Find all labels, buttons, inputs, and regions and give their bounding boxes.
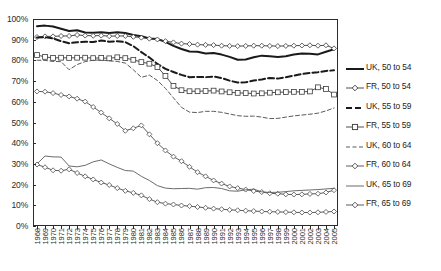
y-tick-mark <box>33 19 36 20</box>
series-marker <box>131 57 136 62</box>
series-marker <box>315 191 320 196</box>
x-tick-mark <box>310 226 311 229</box>
series-marker <box>235 44 240 49</box>
legend-item-label: FR, 50 to 54 <box>366 81 411 91</box>
series-marker <box>299 43 304 48</box>
y-tick-label: 60% <box>12 97 28 107</box>
series-marker <box>315 43 320 48</box>
series-marker <box>211 88 216 93</box>
x-tick-mark <box>222 226 223 229</box>
series-marker <box>299 192 304 197</box>
series-marker <box>211 206 216 211</box>
legend-key-icon <box>345 178 365 190</box>
series-marker <box>219 89 224 94</box>
legend-item-uk-65-to-69[interactable]: UK, 65 to 69 <box>345 174 441 194</box>
series-marker <box>83 174 88 179</box>
series-marker <box>75 32 80 37</box>
series-marker <box>267 191 272 196</box>
legend-item-uk-55-to-59[interactable]: UK, 55 to 59 <box>345 96 441 116</box>
series-marker <box>75 55 80 60</box>
y-tick-label: 80% <box>12 55 28 65</box>
legend-key-icon <box>345 100 365 112</box>
series-marker <box>219 43 224 48</box>
legend-item-label: UK, 55 to 59 <box>366 101 411 111</box>
series-marker <box>187 204 192 209</box>
series-marker <box>267 209 272 214</box>
series-line <box>37 60 334 119</box>
y-tick-mark <box>33 164 36 165</box>
series-marker <box>267 90 272 95</box>
x-tick-mark <box>93 226 94 229</box>
series-marker <box>307 43 312 48</box>
series-marker <box>203 174 208 179</box>
series-marker <box>147 61 152 66</box>
x-tick-mark <box>190 226 191 229</box>
series-marker <box>307 191 312 196</box>
series-marker <box>91 33 96 38</box>
legend-item-label: FR, 55 to 59 <box>366 120 411 130</box>
series-marker <box>115 33 120 38</box>
legend-key-icon <box>345 158 365 170</box>
y-tick-label: 30% <box>12 159 28 169</box>
y-tick-mark <box>33 185 36 186</box>
legend-item-fr-50-to-54[interactable]: FR, 50 to 54 <box>345 77 441 97</box>
x-axis: 1968196919701971197219731974197519761977… <box>33 228 338 271</box>
x-tick-mark <box>181 226 182 229</box>
x-tick-mark <box>77 226 78 229</box>
y-tick-label: 10% <box>12 200 28 210</box>
x-tick-mark <box>133 226 134 229</box>
x-tick-mark <box>69 226 70 229</box>
legend-item-fr-60-to-64[interactable]: FR, 60 to 64 <box>345 155 441 175</box>
y-tick-label: 0% <box>16 221 28 231</box>
x-tick-mark <box>141 226 142 229</box>
x-tick-label: 2005 <box>330 228 339 245</box>
series-marker <box>195 204 200 209</box>
series-marker <box>179 203 184 208</box>
x-tick-mark <box>45 226 46 229</box>
x-tick-mark <box>53 226 54 229</box>
x-tick-mark <box>125 226 126 229</box>
series-marker <box>332 92 337 97</box>
series-marker <box>59 33 64 38</box>
x-tick-mark <box>278 226 279 229</box>
series-marker <box>332 209 337 214</box>
series-line <box>37 156 334 192</box>
legend-item-fr-55-to-59[interactable]: FR, 55 to 59 <box>345 116 441 136</box>
legend-item-uk-60-to-64[interactable]: UK, 60 to 64 <box>345 135 441 155</box>
x-tick-mark <box>302 226 303 229</box>
series-marker <box>107 56 112 61</box>
series-marker <box>99 33 104 38</box>
legend-item-fr-65-to-69[interactable]: FR, 65 to 69 <box>345 194 441 214</box>
series-marker <box>259 91 264 96</box>
x-tick-mark <box>157 226 158 229</box>
series-marker <box>147 197 152 202</box>
series-uk-60-to-64 <box>37 60 334 119</box>
series-marker <box>59 55 64 60</box>
legend-key-icon <box>345 80 365 92</box>
series-marker <box>115 55 120 60</box>
series-marker <box>203 205 208 210</box>
series-marker <box>195 170 200 175</box>
series-marker <box>219 181 224 186</box>
series-marker <box>275 44 280 49</box>
y-tick-label: 40% <box>12 138 28 148</box>
series-marker <box>227 207 232 212</box>
y-tick-mark <box>33 40 36 41</box>
x-tick-mark <box>173 226 174 229</box>
x-tick-mark <box>117 226 118 229</box>
y-tick-label: 50% <box>12 118 28 128</box>
series-marker <box>235 91 240 96</box>
series-marker <box>51 168 56 173</box>
series-marker <box>59 168 64 173</box>
series-marker <box>291 43 296 48</box>
series-marker <box>235 208 240 213</box>
y-tick-mark <box>33 205 36 206</box>
y-tick-mark <box>33 143 36 144</box>
x-tick-mark <box>270 226 271 229</box>
series-marker <box>35 89 40 94</box>
x-tick-mark <box>286 226 287 229</box>
series-marker <box>51 91 56 96</box>
legend-item-uk-50-to-54[interactable]: UK, 50 to 54 <box>345 57 441 77</box>
y-tick-mark <box>33 102 36 103</box>
series-fr-60-to-64 <box>35 89 337 197</box>
